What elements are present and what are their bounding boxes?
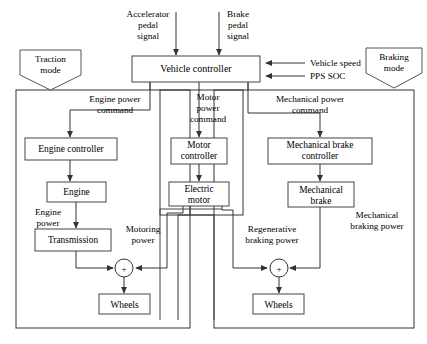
motor-power-command-line3: command	[190, 114, 227, 124]
mech-braking-power-label-line1: Mechanical	[356, 210, 399, 220]
mech-brake-controller-label-line2: controller	[302, 151, 339, 161]
electric-motor-label-line1: Electric	[184, 184, 213, 194]
mech-brake-label-line1: Mechanical	[299, 185, 343, 195]
braking-mode-container	[214, 90, 414, 328]
wheels-right-label: Wheels	[264, 300, 292, 310]
wheels-left-label: Wheels	[110, 300, 138, 310]
motoring-power-label-line2: power	[132, 235, 155, 245]
brake-label-line1: Brake	[227, 9, 249, 19]
motor-power-command-line1: Motor	[197, 92, 220, 102]
braking-mode-label-line2: mode	[384, 63, 404, 73]
engine-power-label-line2: power	[37, 218, 60, 228]
pps-soc-label: PPS SOC	[310, 71, 346, 81]
braking-sum-plus: +	[276, 264, 281, 274]
motor-feedback-down-path	[178, 203, 190, 320]
block-diagram-canvas: + + Acce	[0, 0, 427, 344]
accelerator-label-line3: signal	[137, 31, 159, 41]
accelerator-label-line2: pedal	[138, 20, 158, 30]
engine-controller-label: Engine controller	[38, 144, 104, 154]
engine-power-command-line2: command	[97, 105, 134, 115]
vehicle-speed-label: Vehicle speed	[310, 58, 361, 68]
engine-power-label-line1: Engine	[35, 207, 61, 217]
mechanical-power-command-line2: command	[292, 105, 329, 115]
motor-controller-label-line1: Motor	[187, 140, 211, 150]
motor-power-command-line2: power	[197, 103, 220, 113]
mech-brake-label-line2: brake	[311, 196, 332, 206]
engine-label: Engine	[63, 187, 90, 197]
brake-label-line3: signal	[227, 31, 249, 41]
brake-label-line2: pedal	[228, 20, 248, 30]
regen-braking-power-label-line2: braking power	[245, 235, 298, 245]
mechanical-power-command-line1: Mechanical power	[276, 94, 344, 104]
traction-mode-label-line1: Traction	[35, 54, 66, 64]
transmission-label: Transmission	[48, 235, 99, 245]
motor-controller-label-line2: controller	[181, 151, 218, 161]
transmission-to-sum-path	[76, 251, 113, 268]
regen-braking-power-label-line1: Regenerative	[248, 224, 296, 234]
engine-power-command-line1: Engine power	[89, 94, 140, 104]
diagram-svg: + + Acce	[0, 0, 427, 344]
accelerator-label-line1: Accelerator	[127, 9, 170, 19]
braking-mode-label-line1: Braking	[379, 52, 409, 62]
traction-sum-plus: +	[121, 264, 126, 274]
traction-mode-label-line2: mode	[40, 65, 60, 75]
motoring-power-label-line1: Motoring	[126, 224, 161, 234]
mech-braking-power-label-line2: braking power	[350, 221, 403, 231]
mech-brake-controller-label-line1: Mechanical brake	[287, 140, 354, 150]
vehicle-controller-label: Vehicle controller	[160, 63, 232, 74]
electric-motor-label-line2: motor	[188, 195, 211, 205]
